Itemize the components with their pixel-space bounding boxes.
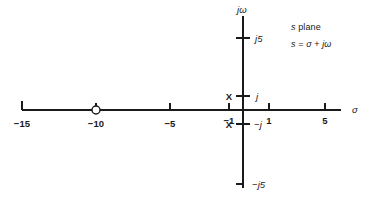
s-plane-annotation: s plane: [291, 22, 321, 32]
annotation-block: s plane s = σ + jω: [291, 22, 331, 49]
zero-marker-at--10: [92, 106, 100, 114]
real-axis-tick-labels: −15 −10 −5 −1 1 5: [14, 115, 329, 129]
s-definition-equals: =: [296, 39, 307, 49]
real-axis-label: σ: [352, 104, 359, 115]
pole-zero-plot-canvas: −15 −10 −5 −1 1 5 j5 j −j −j5 jω σ X X: [0, 0, 375, 200]
real-axis-ticks: [22, 101, 325, 110]
tick-label-x--5: −5: [164, 118, 176, 129]
s-definition-plus: +: [312, 39, 323, 49]
tick-label-x-5: 5: [322, 115, 328, 126]
tick-label-x-1: 1: [266, 115, 272, 126]
pole-marker-lower: X: [226, 119, 233, 130]
tick-label-y--j1: −j: [254, 119, 263, 130]
s-definition-annotation: s = σ + jω: [291, 39, 331, 49]
s-definition-jomega: jω: [321, 39, 331, 49]
imaginary-axis-tick-labels: j5 j −j −j5: [252, 33, 266, 190]
tick-label-y--j5: −j5: [252, 179, 266, 190]
s-plane-annotation-word: plane: [296, 22, 321, 32]
imaginary-axis-label: jω: [235, 4, 247, 15]
tick-label-y-j5: j5: [253, 33, 263, 44]
tick-label-x--15: −15: [14, 118, 31, 129]
s-plane-pole-zero-figure: −15 −10 −5 −1 1 5 j5 j −j −j5 jω σ X X: [0, 0, 375, 200]
zero-markers-group: [92, 106, 100, 114]
tick-label-y-j1: j: [254, 91, 259, 102]
tick-label-x--10: −10: [88, 118, 104, 129]
pole-marker-upper: X: [226, 91, 233, 102]
axis-names: jω σ: [235, 4, 359, 115]
